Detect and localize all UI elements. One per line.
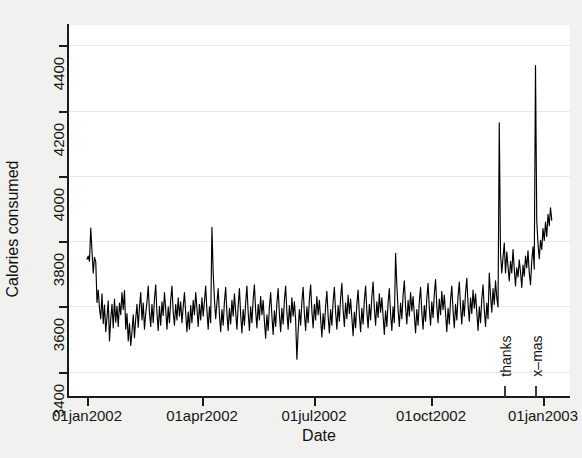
x-tick-01oct2002 xyxy=(431,398,433,406)
y-tick-label-3800: 3800 xyxy=(50,240,67,300)
x-tick-01jul2002 xyxy=(314,398,316,406)
series-line-calories-consumed xyxy=(68,25,570,397)
x-tick-01jan2003 xyxy=(543,398,545,406)
x-tick-label-01jan2003: 01jan2003 xyxy=(508,407,578,424)
x-axis-title: Date xyxy=(68,427,570,445)
x-tick-label-01oct2002: 01oct2002 xyxy=(396,407,466,424)
x-axis-line xyxy=(67,396,570,398)
event-label-1: x–mas xyxy=(529,327,545,385)
y-axis-line xyxy=(67,24,69,398)
y-tick-label-4000: 4000 xyxy=(50,175,67,235)
event-tick-1 xyxy=(535,386,537,397)
x-tick-01apr2002 xyxy=(202,398,204,406)
x-tick-label-01jan2002: 01jan2002 xyxy=(52,407,122,424)
x-tick-label-01apr2002: 01apr2002 xyxy=(166,407,238,424)
y-tick-label-4200: 4200 xyxy=(50,110,67,170)
y-tick-label-3600: 3600 xyxy=(50,305,67,365)
y-axis-title: Calories consumed xyxy=(0,0,26,458)
event-tick-0 xyxy=(504,386,506,397)
plot-area xyxy=(68,25,570,397)
x-tick-01jan2002 xyxy=(87,398,89,406)
calories-time-series-figure: 340036003800400042004400 01jan200201apr2… xyxy=(0,0,582,458)
x-tick-label-01jul2002: 01jul2002 xyxy=(281,407,346,424)
event-label-0: thanks xyxy=(498,327,514,385)
y-tick-label-4400: 4400 xyxy=(50,44,67,104)
